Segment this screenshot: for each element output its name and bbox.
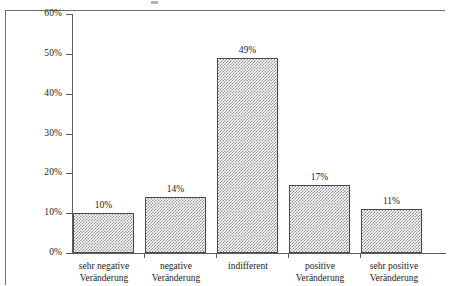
x-axis-tick — [216, 253, 217, 258]
x-axis-category-label: sehr positive Veränderung — [356, 261, 432, 284]
bar-chart-figure: 0% 10% 20% 30% 40% 50% 60% 10% 14% 49% 1… — [0, 0, 460, 286]
category-line: Veränderung — [284, 273, 356, 285]
x-axis-tick — [288, 253, 289, 258]
bar-sehr-positive-veraenderung — [361, 209, 422, 253]
category-line: negative — [140, 261, 212, 273]
y-axis-tick — [66, 54, 72, 55]
bar-negative-veraenderung — [145, 197, 206, 253]
y-axis-tick — [66, 253, 72, 254]
x-axis-tick — [360, 253, 361, 258]
y-axis-tick-label: 50% — [0, 48, 62, 58]
bar-value-label: 49% — [217, 45, 278, 55]
y-axis-tick-label: 0% — [0, 247, 62, 257]
bar-value-label: 14% — [145, 184, 206, 194]
y-axis-tick — [66, 173, 72, 174]
category-line: sehr positive — [356, 261, 432, 273]
x-axis-category-label: positive Veränderung — [284, 261, 356, 284]
y-axis-tick-label: 60% — [0, 8, 62, 18]
x-axis-category-label: sehr negative Veränderung — [68, 261, 140, 284]
y-axis-tick — [66, 94, 72, 95]
x-axis-category-label: indifferent — [212, 261, 284, 273]
x-axis-category-label: negative Veränderung — [140, 261, 212, 284]
category-line: indifferent — [212, 261, 284, 273]
category-line: Veränderung — [140, 273, 212, 285]
y-axis-tick — [66, 134, 72, 135]
category-line: positive — [284, 261, 356, 273]
y-axis-tick — [66, 213, 72, 214]
bar-value-label: 17% — [289, 172, 350, 182]
y-axis-tick-label: 30% — [0, 128, 62, 138]
y-axis-tick — [66, 14, 72, 15]
x-axis-line — [72, 253, 446, 254]
y-axis-tick-label: 10% — [0, 207, 62, 217]
category-line: sehr negative — [68, 261, 140, 273]
bar-value-label: 11% — [361, 196, 422, 206]
bar-value-label: 10% — [73, 200, 134, 210]
category-line: Veränderung — [356, 273, 432, 285]
bar-positive-veraenderung — [289, 185, 350, 253]
category-line: Veränderung — [68, 273, 140, 285]
bar-sehr-negative-veraenderung — [73, 213, 134, 253]
x-axis-tick — [144, 253, 145, 258]
bar-indifferent — [217, 58, 278, 253]
y-axis-tick-label: 20% — [0, 167, 62, 177]
y-axis-tick-label: 40% — [0, 88, 62, 98]
